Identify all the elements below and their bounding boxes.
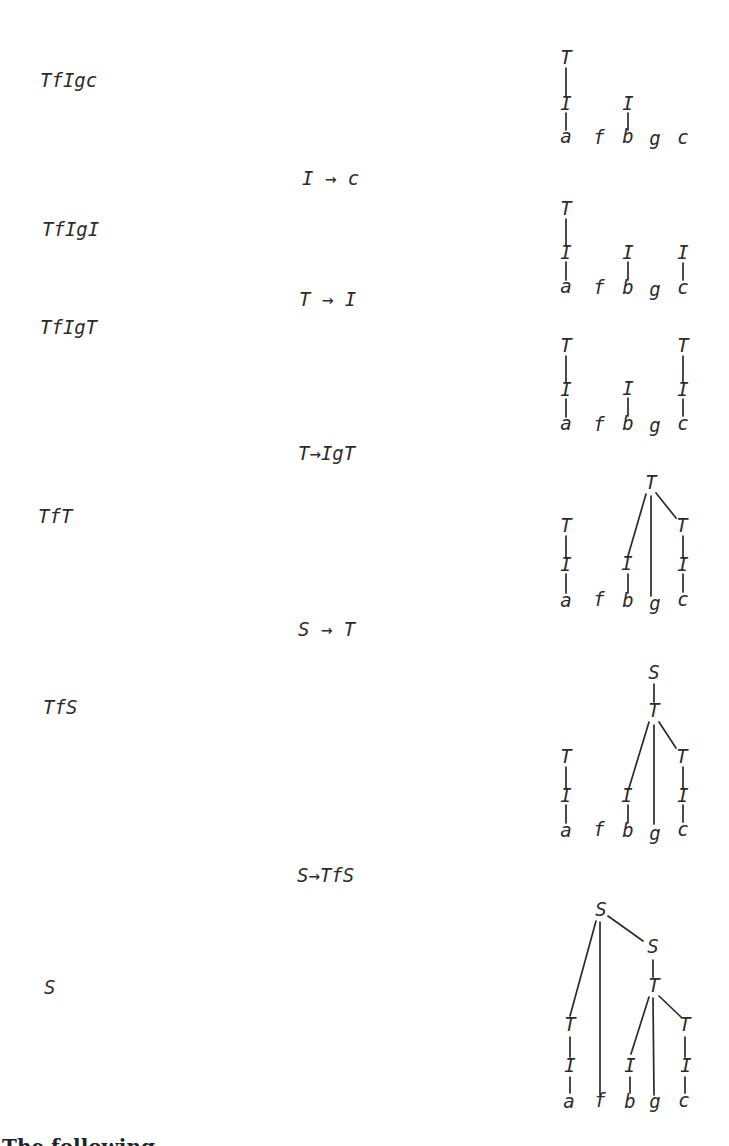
tree-node-g: g: [649, 414, 660, 436]
tree-node-T: T: [676, 745, 689, 767]
tree-node-S: S: [647, 935, 658, 957]
tree-node-g: g: [649, 1090, 660, 1112]
tree-node-T: T: [560, 514, 573, 536]
tree-node-S: S: [595, 898, 606, 920]
tree-node-f: f: [593, 818, 605, 840]
tree-step-4-TfT: TTIafIbgTIc: [560, 471, 689, 614]
tree-node-c: c: [677, 588, 688, 610]
tree-node-T: T: [679, 1013, 692, 1035]
tree-edge: [659, 996, 681, 1017]
tree-node-f: f: [593, 588, 605, 610]
tree-node-I: I: [560, 553, 571, 575]
tree-node-I: I: [560, 784, 571, 806]
tree-node-g: g: [649, 822, 660, 844]
tree-edge: [629, 722, 649, 788]
tree-edge: [656, 493, 676, 518]
cropped-caption: The following: [2, 1137, 729, 1146]
scanned-figure-page: TfIgc TfIgI TfIgT TfT TfS S I → c T → I …: [0, 0, 729, 1146]
tree-node-f: f: [594, 1089, 606, 1111]
tree-node-f: f: [593, 276, 605, 298]
tree-node-a: a: [560, 819, 571, 841]
tree-node-f: f: [593, 413, 605, 435]
tree-edge: [631, 997, 649, 1054]
tree-node-T: T: [645, 471, 658, 493]
tree-node-b: b: [622, 276, 633, 298]
cropped-caption-text: The following: [2, 1137, 729, 1146]
tree-node-b: b: [622, 125, 633, 147]
tree-node-I: I: [677, 784, 688, 806]
tree-node-c: c: [677, 412, 688, 434]
tree-node-I: I: [560, 378, 571, 400]
tree-node-I: I: [560, 92, 571, 114]
tree-node-c: c: [678, 1089, 689, 1111]
tree-edge: [653, 998, 654, 1095]
tree-node-I: I: [677, 553, 688, 575]
tree-step-6-S: SSTTIafIbgTIc: [563, 898, 692, 1112]
tree-node-b: b: [624, 1090, 635, 1112]
tree-node-g: g: [649, 592, 660, 614]
tree-node-b: b: [622, 589, 633, 611]
tree-node-I: I: [624, 1054, 635, 1076]
tree-node-a: a: [563, 1090, 574, 1112]
tree-node-f: f: [593, 126, 605, 148]
tree-node-T: T: [648, 974, 661, 996]
tree-node-I: I: [621, 784, 632, 806]
tree-node-a: a: [560, 275, 571, 297]
tree-node-I: I: [622, 92, 633, 114]
tree-node-I: I: [564, 1054, 575, 1076]
tree-node-T: T: [677, 334, 690, 356]
tree-node-I: I: [560, 241, 571, 263]
tree-node-S: S: [648, 661, 659, 683]
tree-node-T: T: [560, 46, 573, 68]
tree-node-I: I: [677, 241, 688, 263]
tree-node-T: T: [560, 197, 573, 219]
tree-node-c: c: [677, 818, 688, 840]
parse-trees-canvas: TIafIbgcTIafIbgIcTIafIbgTIcTTIafIbgTIcST…: [0, 0, 729, 1146]
tree-node-b: b: [622, 412, 633, 434]
tree-node-T: T: [560, 745, 573, 767]
tree-step-2-TfIgI: TIafIbgIc: [560, 197, 688, 300]
tree-node-T: T: [564, 1013, 577, 1035]
tree-node-T: T: [676, 514, 689, 536]
tree-edge: [608, 916, 643, 941]
tree-node-c: c: [677, 126, 688, 148]
tree-node-a: a: [560, 589, 571, 611]
tree-node-g: g: [649, 127, 660, 149]
tree-step-5-TfS: STTIafIbgTIc: [560, 661, 689, 844]
tree-node-I: I: [680, 1054, 691, 1076]
tree-node-b: b: [622, 819, 633, 841]
tree-node-I: I: [622, 377, 633, 399]
tree-node-a: a: [560, 125, 571, 147]
tree-node-I: I: [622, 241, 633, 263]
tree-step-3-TfIgT: TIafIbgTIc: [560, 334, 690, 436]
tree-edge: [659, 722, 676, 748]
tree-node-T: T: [648, 699, 661, 721]
tree-node-c: c: [677, 276, 688, 298]
tree-node-a: a: [560, 412, 571, 434]
tree-node-g: g: [649, 278, 660, 300]
tree-node-T: T: [560, 334, 573, 356]
tree-edge: [570, 921, 596, 1016]
tree-node-I: I: [621, 552, 632, 574]
tree-node-I: I: [677, 378, 688, 400]
tree-edge: [628, 494, 646, 556]
tree-step-1-TfIgc: TIafIbgc: [560, 46, 688, 149]
